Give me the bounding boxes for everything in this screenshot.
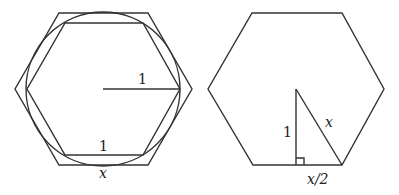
diagram-canvas: 1 1 x 1 x x/2 (0, 0, 399, 195)
half-side-label: x/2 (307, 171, 329, 187)
outer-side-label: x (99, 165, 107, 181)
hypotenuse-line (296, 89, 342, 165)
inner-side-label: 1 (99, 138, 108, 154)
right-figure: 1 x x/2 (208, 13, 384, 187)
left-figure: 1 1 x (15, 12, 192, 181)
hypotenuse-label: x (325, 114, 333, 130)
radius-label: 1 (138, 71, 147, 87)
right-angle-marker (296, 158, 304, 165)
height-label: 1 (283, 124, 292, 140)
